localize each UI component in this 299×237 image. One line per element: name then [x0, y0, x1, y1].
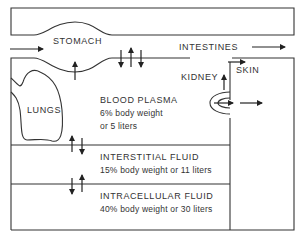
- stomach-label: STOMACH: [53, 37, 102, 46]
- skin-label: SKIN: [236, 66, 259, 75]
- blood-plasma-volume: or 5 liters: [100, 122, 137, 131]
- interstitial-fluid-title: INTERSTITIAL FLUID: [100, 153, 199, 162]
- intracellular-fluid-amount: 40% body weight or 30 liters: [100, 205, 212, 214]
- lungs-label: LUNGS: [27, 106, 61, 115]
- gi-tract-upper-wall: [11, 8, 294, 35]
- kidney-label: KIDNEY: [181, 73, 218, 82]
- intracellular-fluid-title: INTRACELLULAR FLUID: [100, 192, 213, 201]
- intestines-label: INTESTINES: [179, 43, 238, 52]
- interstitial-fluid-amount: 15% body weight or 11 liters: [100, 166, 212, 175]
- blood-plasma-percent: 6% body weight: [100, 109, 163, 118]
- blood-plasma-title: BLOOD PLASMA: [100, 96, 178, 105]
- fluid-compartment-diagram: [0, 0, 299, 237]
